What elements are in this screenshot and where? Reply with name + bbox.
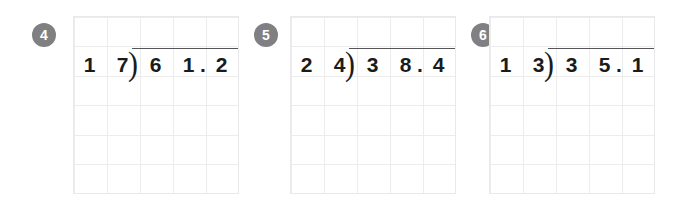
division-expression: 1335.1 [489,50,654,80]
division-bracket-icon: ) [128,46,138,81]
dividend-digit-1: 3 [555,50,588,80]
dividend-digit-3: 2 [205,50,238,80]
divisor-digit-1: 1 [489,50,522,80]
worksheet: 4 1761.2 ) 5 2438.4 ) 6 1335.1 ) [0,0,678,207]
dividend-digit-1: 6 [139,50,172,80]
divisor-digit-1: 2 [290,50,323,80]
division-overbar [349,48,455,49]
division-overbar [548,48,654,49]
dividend-digit-3: 1 [621,50,654,80]
division-overbar [132,48,238,49]
division-expression: 2438.4 [290,50,455,80]
problem-number-badge: 4 [32,23,56,47]
dividend-digit-3: 4 [422,50,455,80]
problem-number-badge: 5 [254,23,278,47]
answer-grid[interactable] [489,16,655,194]
answer-grid[interactable] [73,16,239,194]
division-expression: 1761.2 [73,50,238,80]
division-bracket-icon: ) [544,46,554,81]
dividend-digit-1: 3 [356,50,389,80]
divisor-digit-1: 1 [73,50,106,80]
division-bracket-icon: ) [345,46,355,81]
answer-grid[interactable] [290,16,456,194]
